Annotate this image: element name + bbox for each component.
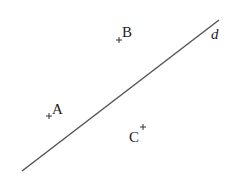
point-b-label: B [122, 24, 132, 40]
point-c: C [129, 124, 146, 145]
cross-marker-icon [140, 124, 146, 130]
point-b: B [116, 24, 132, 43]
point-c-label: C [129, 129, 139, 145]
line-d [22, 20, 219, 171]
point-a: A [46, 101, 63, 119]
diagram-canvas: d B A C [0, 0, 236, 182]
point-a-label: A [52, 101, 63, 117]
geometry-figure: d B A C [0, 0, 236, 182]
line-d-label: d [211, 26, 219, 42]
